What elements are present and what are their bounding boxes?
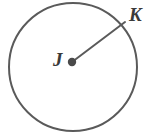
radius-segment-jk: [72, 22, 125, 62]
point-label-k: K: [129, 5, 142, 24]
circle-outline: [9, 3, 137, 131]
center-point-j: [68, 58, 76, 66]
circle-diagram-figure: J K: [0, 0, 161, 140]
point-label-j: J: [53, 50, 63, 69]
